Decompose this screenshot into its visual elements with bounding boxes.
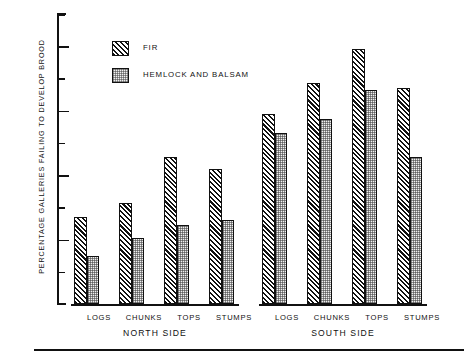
x-axis-label-south-side-stumps: STUMPS — [390, 313, 455, 322]
bar-north-side-logs-hem — [87, 256, 100, 304]
footer-rule — [34, 349, 464, 351]
bar-south-side-logs-hem — [275, 133, 288, 304]
bar-north-side-tops-hem — [177, 225, 190, 304]
group-label-north-side: NORTH SIDE — [71, 328, 239, 338]
bar-north-side-chunks-hem — [132, 238, 145, 304]
y-tick-80 — [59, 46, 69, 48]
bar-south-side-stumps-hem — [410, 157, 423, 304]
bar-south-side-tops-fir — [352, 49, 365, 304]
y-tick-10 — [59, 272, 65, 274]
bar-south-side-logs-fir — [262, 114, 275, 304]
group-label-south-side: SOUTH SIDE — [259, 328, 427, 338]
legend-label-fir: FIR — [143, 43, 158, 52]
bar-north-side-stumps-hem — [222, 220, 235, 304]
figure-caption — [34, 354, 454, 362]
y-tick-20 — [59, 240, 69, 242]
y-tick-70 — [59, 78, 65, 80]
legend-swatch-hemlock-icon — [112, 68, 129, 83]
bar-south-side-tops-hem — [365, 90, 378, 304]
bar-chart-figure: PERCENTAGE GALLERIES FAILING TO DEVELOP … — [0, 0, 464, 362]
bar-south-side-stumps-fir — [397, 88, 410, 304]
bar-south-side-chunks-hem — [320, 119, 333, 304]
y-axis-bottom-cap — [57, 303, 66, 305]
bar-south-side-chunks-fir — [307, 83, 320, 304]
y-tick-30 — [59, 207, 65, 209]
bar-north-side-chunks-fir — [119, 203, 132, 305]
baseline-south-side — [259, 304, 427, 306]
y-axis-spine — [57, 13, 59, 305]
y-tick-60 — [59, 111, 69, 113]
legend-swatch-fir-icon — [112, 41, 129, 56]
y-axis-title: PERCENTAGE GALLERIES FAILING TO DEVELOP … — [37, 32, 46, 282]
baseline-north-side — [71, 304, 239, 306]
y-tick-90 — [59, 14, 65, 16]
plot-area: 20406080LOGSCHUNKSTOPSSTUMPSNORTH SIDELO… — [57, 13, 457, 305]
y-tick-50 — [59, 143, 65, 145]
bar-north-side-stumps-fir — [209, 169, 222, 304]
bar-north-side-logs-fir — [74, 217, 87, 304]
y-tick-40 — [59, 175, 69, 177]
legend-label-hemlock: HEMLOCK AND BALSAM — [143, 70, 249, 79]
bar-north-side-tops-fir — [164, 157, 177, 304]
